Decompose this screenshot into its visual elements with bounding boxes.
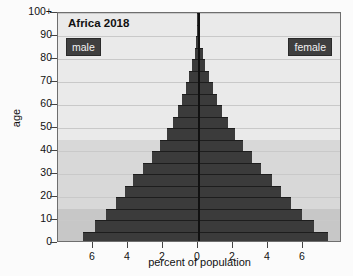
x-tick-labels: 6420246 (0, 0, 353, 276)
population-pyramid-chart: age percent of population Africa 2018 ma… (0, 0, 353, 276)
x-tick-label-2: 2 (152, 250, 172, 262)
x-tick-label-0: 6 (82, 250, 102, 262)
x-tick-label-6: 6 (292, 250, 312, 262)
x-tick-label-1: 4 (117, 250, 137, 262)
x-tick-label-3: 0 (187, 250, 207, 262)
x-tick-label-5: 4 (257, 250, 277, 262)
x-tick-label-4: 2 (222, 250, 242, 262)
